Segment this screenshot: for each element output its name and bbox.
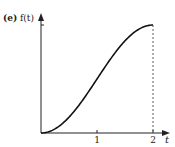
y-axis-label: f(t)	[20, 13, 34, 23]
y-axis-arrow	[38, 13, 44, 21]
x-tick-label-1: 1	[94, 135, 100, 145]
chart: 12 (e) f(t) t	[0, 0, 175, 147]
series-line-f	[41, 25, 153, 133]
panel-label: (e)	[3, 13, 17, 23]
x-axis-label: t	[165, 134, 170, 145]
x-tick-label-2: 2	[150, 135, 156, 145]
